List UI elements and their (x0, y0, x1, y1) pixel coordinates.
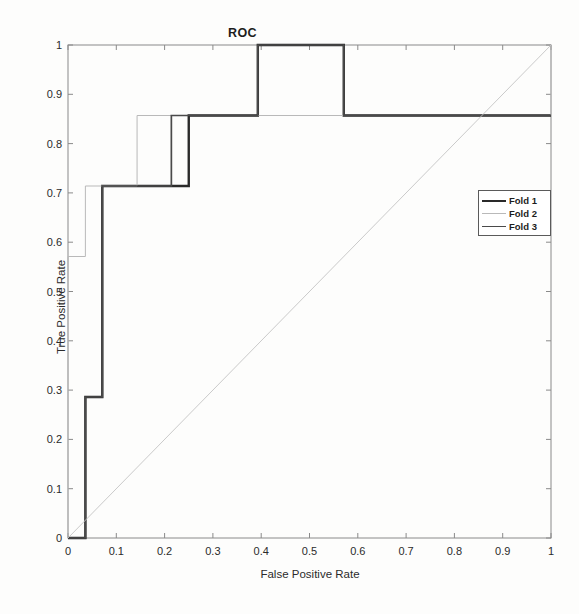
x-tick-label-0: 0 (65, 545, 71, 557)
x-tick-label-6: 0.6 (350, 545, 365, 557)
legend-line-icon-fold-3 (482, 226, 506, 227)
plot-canvas (0, 0, 579, 614)
legend[interactable]: Fold 1 Fold 2 Fold 3 (478, 190, 551, 236)
y-tick-label-5: 0.5 (30, 286, 62, 298)
legend-label-fold-2: Fold 2 (509, 209, 537, 219)
y-tick-label-9: 0.9 (30, 88, 62, 100)
x-tick-label-5: 0.5 (302, 545, 317, 557)
legend-line-icon-fold-1 (482, 200, 506, 202)
series-layer (68, 45, 551, 538)
x-tick-label-1: 0.1 (109, 545, 124, 557)
y-tick-label-0: 0 (30, 532, 62, 544)
x-tick-label-4: 0.4 (254, 545, 269, 557)
y-tick-label-2: 0.2 (30, 433, 62, 445)
y-tick-label-6: 0.6 (30, 236, 62, 248)
y-tick-label-7: 0.7 (30, 187, 62, 199)
roc-figure: ROC True Positive Rate False Positive Ra… (0, 0, 579, 614)
legend-label-fold-1: Fold 1 (509, 196, 537, 206)
x-tick-label-8: 0.8 (447, 545, 462, 557)
y-tick-label-10: 1 (30, 39, 62, 51)
x-axis-label: False Positive Rate (68, 568, 552, 580)
y-tick-label-8: 0.8 (30, 138, 62, 150)
y-tick-label-3: 0.3 (30, 384, 62, 396)
series-chance-diagonal (68, 45, 551, 538)
legend-item-fold-2[interactable]: Fold 2 (482, 207, 548, 220)
y-tick-label-1: 0.1 (30, 483, 62, 495)
x-tick-label-2: 0.2 (157, 545, 172, 557)
legend-item-fold-3[interactable]: Fold 3 (482, 220, 548, 233)
x-tick-label-7: 0.7 (398, 545, 413, 557)
legend-item-fold-1[interactable]: Fold 1 (482, 194, 548, 207)
x-tick-label-10: 1 (548, 545, 554, 557)
x-tick-label-3: 0.3 (205, 545, 220, 557)
caption-strip (0, 598, 579, 614)
y-tick-label-4: 0.4 (30, 335, 62, 347)
legend-line-icon-fold-2 (482, 213, 506, 214)
x-tick-label-9: 0.9 (495, 545, 510, 557)
legend-label-fold-3: Fold 3 (509, 222, 537, 232)
